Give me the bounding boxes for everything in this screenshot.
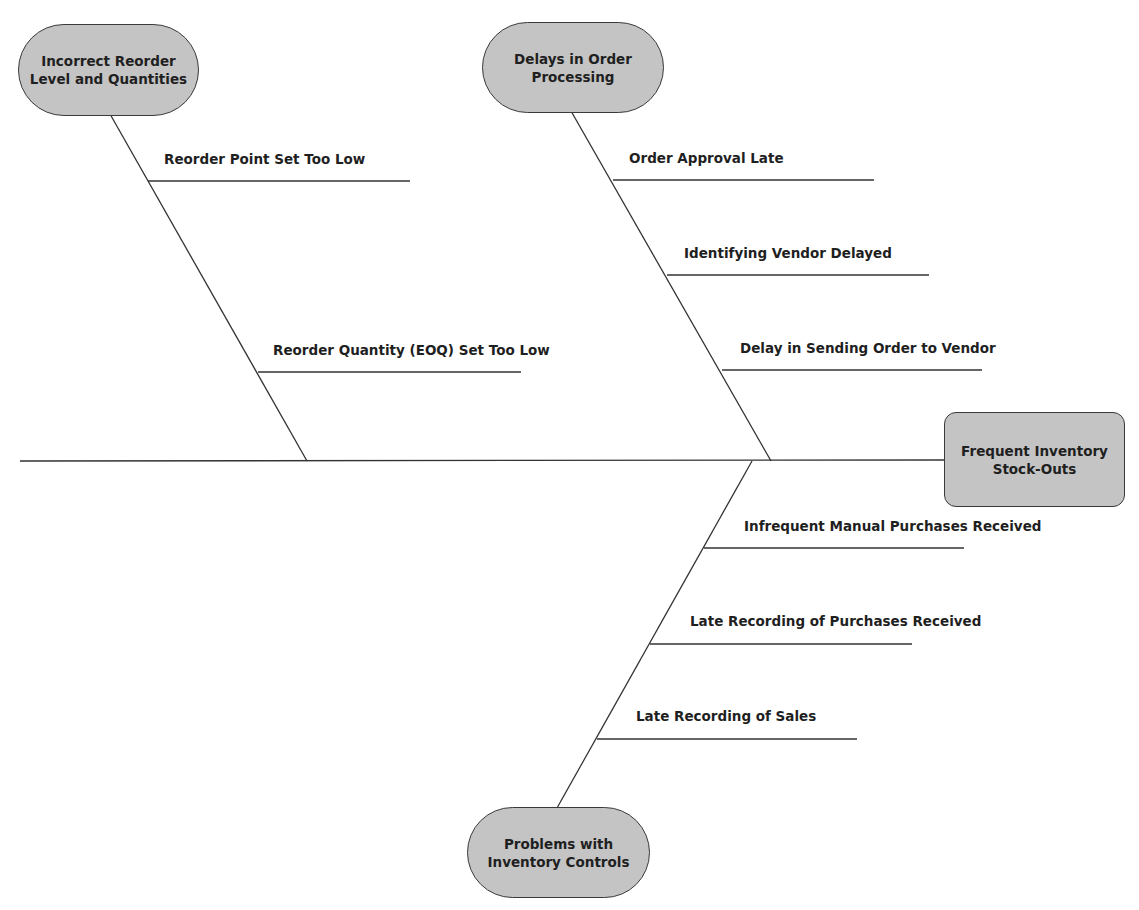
cause-reorder-quantity: Reorder Quantity (EOQ) Set Too Low: [273, 342, 550, 358]
category-label-line1: Incorrect Reorder: [30, 52, 187, 70]
cause-delay-sending: Delay in Sending Order to Vendor: [740, 340, 996, 356]
spine-line: [20, 460, 944, 461]
cause-late-sales: Late Recording of Sales: [636, 708, 816, 724]
category-incorrect-reorder: Incorrect Reorder Level and Quantities: [18, 24, 199, 116]
category-label-line1: Problems with: [488, 835, 630, 853]
category-delays-order-processing: Delays in Order Processing: [482, 22, 664, 113]
cause-reorder-point: Reorder Point Set Too Low: [164, 151, 365, 167]
category-problems-inventory-controls: Problems with Inventory Controls: [467, 807, 650, 898]
effect-label-line2: Stock-Outs: [961, 460, 1108, 478]
cause-identifying-vendor: Identifying Vendor Delayed: [684, 245, 892, 261]
cause-late-purchases: Late Recording of Purchases Received: [690, 613, 981, 629]
category-label-line2: Inventory Controls: [488, 853, 630, 871]
category-label-line1: Delays in Order: [514, 50, 632, 68]
effect-frequent-stock-outs: Frequent Inventory Stock-Outs: [944, 412, 1125, 507]
bone-problems-inventory-controls: [557, 461, 752, 808]
cause-infrequent-manual: Infrequent Manual Purchases Received: [744, 518, 1042, 534]
cause-order-approval: Order Approval Late: [629, 150, 784, 166]
category-label-line2: Processing: [514, 68, 632, 86]
effect-label-line1: Frequent Inventory: [961, 442, 1108, 460]
category-label-line2: Level and Quantities: [30, 70, 187, 88]
